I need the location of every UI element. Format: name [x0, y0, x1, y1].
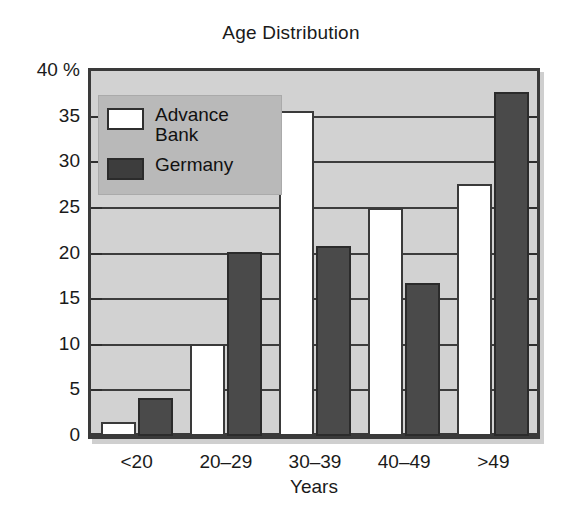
y-tick-label-30: 30: [59, 150, 80, 172]
x-axis-tick-labels: <2020–2930–3940–49>49: [88, 451, 540, 477]
y-tick-label-35: 35: [59, 105, 80, 127]
x-axis-title: Years: [88, 476, 540, 498]
y-tick-label-20: 20: [59, 242, 80, 264]
y-tick-label-5: 5: [69, 378, 80, 400]
x-tick-label-4: >49: [477, 451, 509, 473]
x-tick-label-0: <20: [120, 451, 152, 473]
y-tick-label-15: 15: [59, 287, 80, 309]
y-tick-label-10: 10: [59, 333, 80, 355]
y-tick-label-25: 25: [59, 196, 80, 218]
y-tick-label-0: 0: [69, 424, 80, 446]
x-tick-label-2: 30–39: [289, 451, 342, 473]
y-tick-label-40: 40 %: [37, 59, 80, 81]
chart-figure: Age Distribution Advance Bank Germany 05…: [0, 0, 582, 529]
y-axis-tick-labels: 0510152025303540 %: [0, 0, 582, 529]
x-tick-label-1: 20–29: [199, 451, 252, 473]
x-tick-label-3: 40–49: [378, 451, 431, 473]
